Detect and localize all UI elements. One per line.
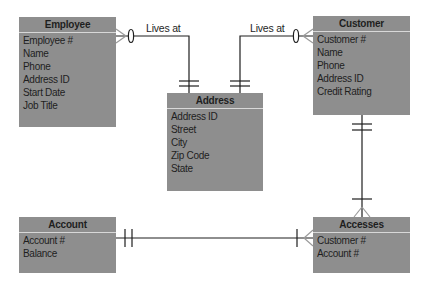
attribute: Employee # <box>23 34 116 47</box>
entity-title: Customer <box>313 16 410 32</box>
entity-title: Employee <box>19 17 116 33</box>
entity-title: Account <box>19 217 116 233</box>
attribute: Start Date <box>23 86 116 99</box>
entity-title: Address <box>167 93 263 109</box>
attribute: Customer # <box>317 33 410 46</box>
entity-employee[interactable]: Employee Employee # Name Phone Address I… <box>19 17 116 127</box>
attribute: Job Title <box>23 99 116 112</box>
attribute: Street <box>171 123 263 136</box>
customer-address-connector <box>230 29 313 93</box>
attribute: Account # <box>23 234 116 247</box>
attribute: Account # <box>317 247 410 260</box>
attribute-list: Account # Balance <box>19 233 116 260</box>
employee-address-connector <box>116 29 199 93</box>
attribute-list: Customer # Account # <box>313 233 410 260</box>
attribute-list: Employee # Name Phone Address ID Start D… <box>19 33 116 112</box>
attribute: Address ID <box>171 110 263 123</box>
attribute: Zip Code <box>171 149 263 162</box>
attribute: Phone <box>23 60 116 73</box>
entity-address[interactable]: Address Address ID Street City Zip Code … <box>167 93 263 191</box>
attribute-list: Address ID Street City Zip Code State <box>167 109 263 175</box>
attribute: Name <box>23 47 116 60</box>
attribute: State <box>171 162 263 175</box>
attribute: Credit Rating <box>317 85 410 98</box>
attribute: Phone <box>317 59 410 72</box>
entity-accesses[interactable]: Accesses Customer # Account # <box>313 217 410 273</box>
account-accesses-connector <box>116 229 313 247</box>
attribute: Address ID <box>317 72 410 85</box>
attribute: Customer # <box>317 234 410 247</box>
attribute: Address ID <box>23 73 116 86</box>
attribute: Balance <box>23 247 116 260</box>
customer-accesses-connector <box>352 115 372 217</box>
customer-lives-at-label: Lives at <box>250 22 285 34</box>
entity-account[interactable]: Account Account # Balance <box>19 217 116 273</box>
attribute-list: Customer # Name Phone Address ID Credit … <box>313 32 410 98</box>
employee-lives-at-label: Lives at <box>146 22 181 34</box>
attribute: City <box>171 136 263 149</box>
entity-customer[interactable]: Customer Customer # Name Phone Address I… <box>313 16 410 115</box>
attribute: Name <box>317 46 410 59</box>
entity-title: Accesses <box>313 217 410 233</box>
